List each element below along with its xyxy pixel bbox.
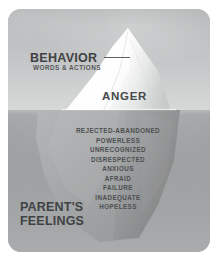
list-item: POWERLESS [66, 136, 170, 146]
label-parents-feelings: PARENT'S FEELINGS [20, 201, 84, 228]
label-parents-feelings-line1: PARENT'S [20, 201, 84, 215]
list-item: ANXIOUS [66, 164, 170, 174]
list-item: AFRAID [66, 174, 170, 184]
iceberg-infographic-card: BEHAVIOR WORDS & ACTIONS ANGER REJECTED-… [8, 9, 210, 252]
behavior-leader-line [104, 57, 130, 58]
list-item: UNRECOGNIZED [66, 145, 170, 155]
list-item: REJECTED-ABANDONED [66, 126, 170, 136]
label-anger: ANGER [102, 90, 147, 102]
label-behavior: BEHAVIOR [30, 51, 97, 65]
list-item: FAILURE [66, 183, 170, 193]
list-item: DISRESPECTED [66, 155, 170, 165]
label-behavior-subtitle: WORDS & ACTIONS [33, 64, 101, 71]
label-parents-feelings-line2: FEELINGS [20, 215, 84, 229]
